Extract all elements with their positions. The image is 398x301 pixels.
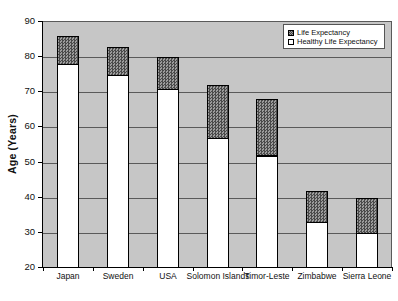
y-axis-title: Age (Years)	[6, 84, 20, 204]
legend: Life Expectancy Healthy Life Expectancy	[283, 24, 385, 49]
y-tick-label: 90	[0, 16, 35, 26]
x-tick-label: Sierra Leone	[335, 272, 398, 282]
y-tick-label: 80	[0, 51, 35, 61]
y-tick	[38, 232, 42, 233]
y-tick-label: 30	[0, 227, 35, 237]
bar-healthy-life-expectancy-0	[57, 64, 79, 268]
x-axis-line	[42, 267, 392, 268]
plot-area	[43, 21, 392, 267]
y-tick-label: 40	[0, 192, 35, 202]
bar-life-expectancy-6	[356, 198, 378, 234]
x-tick	[143, 267, 144, 271]
bar-life-expectancy-4	[256, 99, 278, 156]
x-tick	[392, 267, 393, 271]
y-tick	[38, 126, 42, 127]
y-axis-line	[42, 21, 43, 268]
bar-life-expectancy-2	[157, 57, 179, 90]
y-tick	[38, 162, 42, 163]
bar-healthy-life-expectancy-3	[207, 138, 229, 268]
bar-healthy-life-expectancy-5	[306, 222, 328, 268]
y-tick-label: 20	[0, 262, 35, 272]
y-tick-label: 50	[0, 157, 35, 167]
bar-healthy-life-expectancy-6	[356, 233, 378, 268]
y-tick	[38, 267, 42, 268]
x-tick	[93, 267, 94, 271]
y-tick	[38, 91, 42, 92]
white-swatch-icon	[288, 39, 294, 45]
y-tick	[38, 21, 42, 22]
bar-life-expectancy-1	[107, 47, 129, 76]
chart: Age (Years) 2030405060708090JapanSwedenU…	[0, 0, 398, 301]
legend-label: Healthy Life Expectancy	[297, 37, 377, 46]
hatched-swatch-icon	[288, 30, 294, 36]
y-tick	[38, 56, 42, 57]
bar-healthy-life-expectancy-4	[256, 156, 278, 268]
legend-item-healthy-life-expectancy: Healthy Life Expectancy	[288, 37, 381, 46]
bar-life-expectancy-0	[57, 36, 79, 65]
gridline-80	[43, 57, 391, 58]
bar-healthy-life-expectancy-1	[107, 75, 129, 268]
legend-label: Life Expectancy	[297, 28, 350, 37]
legend-item-life-expectancy: Life Expectancy	[288, 28, 381, 37]
bar-healthy-life-expectancy-2	[157, 89, 179, 268]
y-tick-label: 70	[0, 86, 35, 96]
bar-life-expectancy-5	[306, 191, 328, 224]
x-tick	[292, 267, 293, 271]
y-tick	[38, 197, 42, 198]
bar-life-expectancy-3	[207, 85, 229, 139]
y-tick-label: 60	[0, 121, 35, 131]
x-tick	[43, 267, 44, 271]
